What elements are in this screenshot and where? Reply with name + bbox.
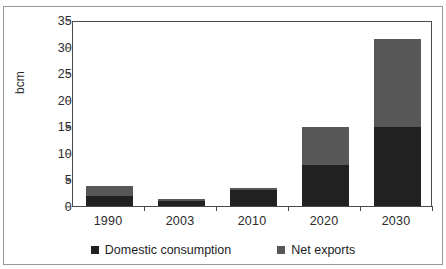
y-tick-mark <box>66 153 71 154</box>
chart-figure: bcm 05101520253035 19902003201020202030 … <box>0 0 446 269</box>
y-tick-mark <box>66 20 71 21</box>
bar-segment <box>230 190 277 207</box>
bar-segment <box>374 127 421 207</box>
x-tick-mark <box>432 206 433 211</box>
x-tick-label: 1990 <box>94 214 123 228</box>
legend-swatch-icon <box>277 246 285 254</box>
y-tick-mark <box>66 127 71 128</box>
legend-label: Net exports <box>291 243 355 257</box>
x-tick-label: 2010 <box>238 214 267 228</box>
x-tick-mark <box>360 206 361 211</box>
legend-item: Domestic consumption <box>91 243 231 257</box>
legend-label: Domestic consumption <box>105 243 231 257</box>
legend-swatch-icon <box>91 246 99 254</box>
bar-segment <box>86 186 133 197</box>
x-tick-mark <box>144 206 145 211</box>
y-tick-label: 0 <box>6 200 72 214</box>
y-tick-mark <box>66 100 71 101</box>
y-tick-label: 20 <box>6 94 72 108</box>
bar-column <box>86 186 133 207</box>
bar-segment <box>302 127 349 164</box>
bar-column <box>230 188 277 207</box>
x-tick-label: 2003 <box>166 214 195 228</box>
x-tick-label: 2020 <box>310 214 339 228</box>
y-tick-mark <box>66 47 71 48</box>
plot-area <box>72 21 432 207</box>
y-tick-label: 35 <box>6 14 72 28</box>
y-tick-mark <box>66 180 71 181</box>
y-tick-label: 15 <box>6 120 72 134</box>
bar-segment <box>302 165 349 208</box>
bar-segment <box>374 39 421 128</box>
y-axis: bcm 05101520253035 <box>0 0 72 269</box>
y-tick-label: 30 <box>6 41 72 55</box>
chart-legend: Domestic consumptionNet exports <box>0 243 446 257</box>
y-tick-label: 25 <box>6 67 72 81</box>
y-tick-label: 5 <box>6 173 72 187</box>
legend-item: Net exports <box>277 243 355 257</box>
y-tick-mark <box>66 206 71 207</box>
x-tick-label: 2030 <box>382 214 411 228</box>
x-tick-mark <box>216 206 217 211</box>
x-axis-baseline <box>72 206 432 207</box>
y-tick-label: 10 <box>6 147 72 161</box>
y-tick-mark <box>66 73 71 74</box>
bar-column <box>374 39 421 207</box>
x-tick-mark <box>288 206 289 211</box>
bar-column <box>302 127 349 207</box>
